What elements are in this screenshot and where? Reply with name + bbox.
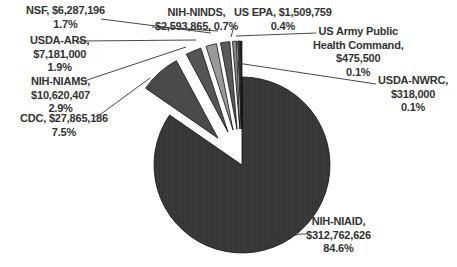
leader-us-army bbox=[236, 33, 316, 36]
label-nsf: NSF, $6,287,196 1.7% bbox=[26, 4, 105, 31]
label-usda-ars: USDA-ARS, $7,181,000 1.9% bbox=[30, 34, 89, 75]
label-nih-ninds: NIH-NINDS, $2,593,865, 0.7% bbox=[155, 6, 238, 33]
label-nih-niams: NIH-NIAMS, $10,620,407 2.9% bbox=[31, 75, 90, 116]
label-nih-niaid: NIH-NIAID, $312,762,626 84.6% bbox=[306, 215, 371, 256]
label-usda-nwrc: USDA-NWRC, $318,000 0.1% bbox=[378, 74, 448, 115]
label-us-army: US Army Public Health Command, $475,500 … bbox=[313, 25, 404, 79]
leader-usda-ars bbox=[77, 40, 196, 42]
label-cdc: CDC, $27,865,186 7.5% bbox=[20, 112, 108, 139]
